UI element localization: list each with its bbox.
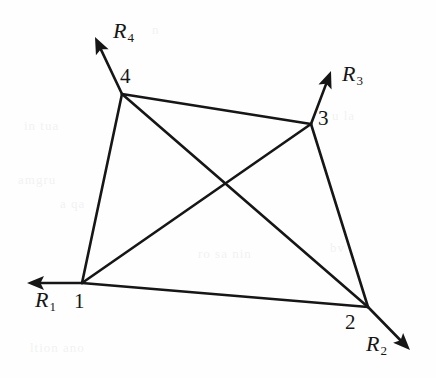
node-label-4: 4 xyxy=(120,66,131,87)
force-label-R1: R1 xyxy=(35,289,55,311)
force-letter-R1: R xyxy=(35,287,48,312)
force-subscript-R2: 2 xyxy=(380,343,387,358)
force-shaft-R4 xyxy=(101,50,122,94)
force-letter-R2: R xyxy=(366,331,379,356)
force-letter-R4: R xyxy=(113,18,126,43)
truss-free-body-diagram: in tua amgru a qa ro sa nin u la ltion a… xyxy=(0,0,436,378)
node-label-2: 2 xyxy=(345,312,356,333)
force-letter-R3: R xyxy=(342,61,355,86)
force-label-R3: R3 xyxy=(342,63,362,85)
force-subscript-R3: 3 xyxy=(356,73,363,88)
edge-1-2 xyxy=(82,283,368,307)
force-subscript-R1: 1 xyxy=(49,299,56,314)
force-label-R2: R2 xyxy=(366,333,386,355)
force-subscript-R4: 4 xyxy=(127,30,134,45)
edge-2-3 xyxy=(311,124,368,307)
edge-4-1 xyxy=(82,94,122,283)
node-label-3: 3 xyxy=(318,108,329,129)
force-label-R4: R4 xyxy=(113,20,133,42)
diagram-canvas xyxy=(0,0,436,378)
diagonal-1-3 xyxy=(82,124,311,283)
node-label-1: 1 xyxy=(74,291,85,312)
diagonal-4-2 xyxy=(122,94,368,307)
